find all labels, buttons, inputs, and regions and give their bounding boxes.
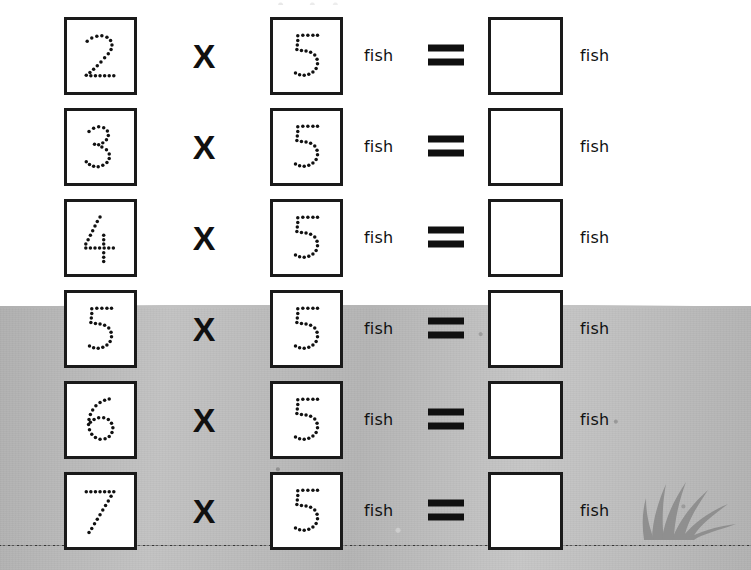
equals-sign — [428, 408, 468, 433]
equals-bar-bottom — [428, 332, 464, 339]
unit-label-fish-right: fish — [580, 230, 609, 246]
factor-a-box[interactable] — [64, 17, 137, 95]
dotted-digit-2 — [67, 20, 134, 92]
dotted-digit-5 — [273, 202, 340, 274]
unit-label-fish-right: fish — [580, 321, 609, 337]
unit-label-fish-left: fish — [364, 139, 393, 155]
dotted-digit-3 — [67, 111, 134, 183]
factor-b-box[interactable] — [270, 472, 343, 550]
unit-label-fish-left: fish — [364, 48, 393, 64]
dotted-digit-5 — [67, 293, 134, 365]
multiplication-operator: X — [186, 312, 222, 346]
equals-bar-bottom — [428, 423, 464, 430]
unit-label-fish-left: fish — [364, 503, 393, 519]
equals-bar-bottom — [428, 59, 464, 66]
equals-bar-top — [428, 318, 464, 325]
answer-box[interactable] — [488, 199, 563, 277]
multiplication-operator: X — [186, 221, 222, 255]
equals-sign — [428, 499, 468, 524]
multiplication-operator: X — [186, 403, 222, 437]
multiplication-operator: X — [186, 39, 222, 73]
equals-bar-top — [428, 45, 464, 52]
equation-row: X fish — [0, 381, 751, 459]
dotted-digit-5 — [273, 475, 340, 547]
equations-list: X fish — [0, 0, 751, 570]
factor-a-box[interactable] — [64, 108, 137, 186]
unit-label-fish-left: fish — [364, 412, 393, 428]
equals-bar-bottom — [428, 241, 464, 248]
multiplication-operator: X — [186, 494, 222, 528]
equation-row: X fish — [0, 199, 751, 277]
unit-label-fish-right: fish — [580, 139, 609, 155]
equals-sign — [428, 317, 468, 342]
equals-sign — [428, 44, 468, 69]
factor-b-box[interactable] — [270, 17, 343, 95]
multiplication-operator: X — [186, 130, 222, 164]
equals-bar-top — [428, 227, 464, 234]
dotted-digit-6 — [67, 384, 134, 456]
unit-label-fish-right: fish — [580, 48, 609, 64]
answer-box[interactable] — [488, 472, 563, 550]
dotted-digit-5 — [273, 293, 340, 365]
equals-bar-bottom — [428, 514, 464, 521]
equation-row: X fish — [0, 290, 751, 368]
factor-a-box[interactable] — [64, 472, 137, 550]
equation-row: X fish — [0, 108, 751, 186]
factor-a-box[interactable] — [64, 290, 137, 368]
dotted-digit-5 — [273, 20, 340, 92]
dotted-digit-5 — [273, 111, 340, 183]
unit-label-fish-left: fish — [364, 230, 393, 246]
factor-b-box[interactable] — [270, 381, 343, 459]
equals-bar-top — [428, 500, 464, 507]
factor-a-box[interactable] — [64, 381, 137, 459]
factor-b-box[interactable] — [270, 290, 343, 368]
factor-b-box[interactable] — [270, 108, 343, 186]
equals-sign — [428, 226, 468, 251]
dotted-digit-5 — [273, 384, 340, 456]
equation-row: X fish — [0, 472, 751, 550]
unit-label-fish-right: fish — [580, 503, 609, 519]
unit-label-fish-right: fish — [580, 412, 609, 428]
worksheet-page: X fish — [0, 0, 751, 570]
factor-a-box[interactable] — [64, 199, 137, 277]
factor-b-box[interactable] — [270, 199, 343, 277]
dotted-digit-4 — [67, 202, 134, 274]
equals-bar-top — [428, 409, 464, 416]
answer-box[interactable] — [488, 290, 563, 368]
answer-box[interactable] — [488, 108, 563, 186]
equals-bar-top — [428, 136, 464, 143]
answer-box[interactable] — [488, 17, 563, 95]
dotted-digit-7 — [67, 475, 134, 547]
unit-label-fish-left: fish — [364, 321, 393, 337]
equals-sign — [428, 135, 468, 160]
answer-box[interactable] — [488, 381, 563, 459]
equals-bar-bottom — [428, 150, 464, 157]
equation-row: X fish — [0, 17, 751, 95]
